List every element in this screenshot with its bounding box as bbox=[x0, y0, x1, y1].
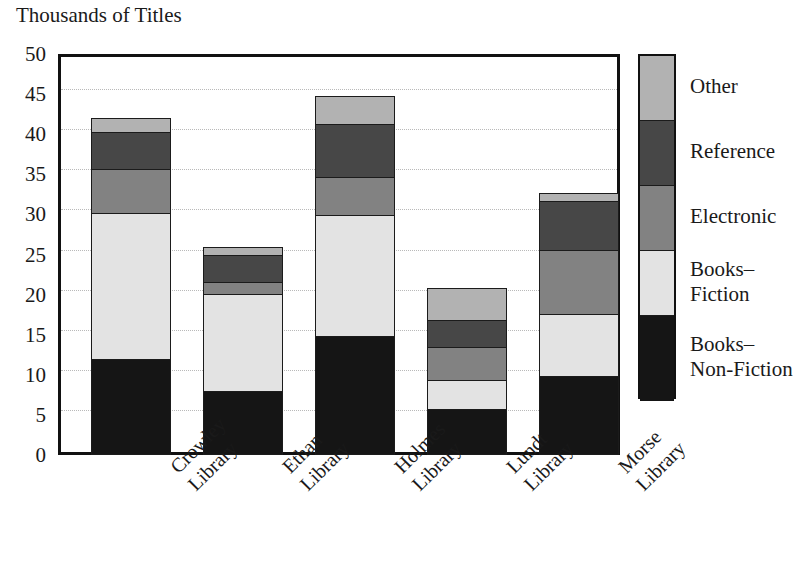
gridline bbox=[61, 209, 617, 211]
x-axis-tick-label-line: Holmes bbox=[389, 461, 407, 479]
legend-swatch bbox=[640, 121, 674, 186]
y-axis-tick-label: 10 bbox=[25, 364, 46, 385]
gridline bbox=[61, 89, 617, 91]
y-axis-tick-label: 0 bbox=[36, 445, 47, 466]
y-axis-tick-label: 20 bbox=[25, 284, 46, 305]
x-axis-tick-label-line: Library bbox=[407, 479, 425, 497]
legend-swatch bbox=[640, 316, 674, 401]
y-axis-tick-label: 25 bbox=[25, 244, 46, 265]
x-axis-tick-label-line: Library bbox=[631, 479, 649, 497]
x-axis-tick-label-line: Ethan bbox=[277, 461, 295, 479]
plot-area bbox=[58, 54, 620, 455]
legend-swatch-bar bbox=[638, 54, 676, 399]
legend-label: Books–Fiction bbox=[690, 257, 754, 307]
gridline bbox=[61, 410, 617, 412]
y-axis-tick-label: 5 bbox=[36, 404, 47, 425]
y-axis-tick-label: 30 bbox=[25, 204, 46, 225]
legend-swatch bbox=[640, 56, 674, 121]
legend-label-line: Other bbox=[690, 74, 738, 99]
legend-label-line: Fiction bbox=[690, 282, 754, 307]
y-axis-tick-label: 50 bbox=[25, 44, 46, 65]
x-axis-tick-label: MorseLibrary bbox=[613, 461, 648, 496]
legend-label: Reference bbox=[690, 139, 775, 164]
stacked-bar-chart: Thousands of Titles 50454035302520151050… bbox=[0, 0, 806, 563]
x-axis-tick-label: EthanLibrary bbox=[277, 461, 312, 496]
x-axis-tick-label-line: Morse bbox=[613, 461, 631, 479]
x-axis-tick-label-line: Library bbox=[183, 479, 201, 497]
y-axis-tick-label: 45 bbox=[25, 84, 46, 105]
x-axis-tick-label-line: Lundt bbox=[501, 461, 519, 479]
legend-label: Books–Non-Fiction bbox=[690, 332, 793, 382]
legend-label-line: Electronic bbox=[690, 204, 776, 229]
legend-label-line: Books– bbox=[690, 257, 754, 282]
legend-label-line: Non-Fiction bbox=[690, 357, 793, 382]
gridline bbox=[61, 370, 617, 372]
legend-label: Electronic bbox=[690, 204, 776, 229]
gridline bbox=[61, 169, 617, 171]
legend: OtherReferenceElectronicBooks–FictionBoo… bbox=[638, 54, 806, 399]
y-axis-tick-label: 40 bbox=[25, 124, 46, 145]
legend-swatch bbox=[640, 186, 674, 251]
y-axis-title: Thousands of Titles bbox=[16, 2, 182, 28]
gridline bbox=[61, 330, 617, 332]
y-axis-tick-labels: 50454035302520151050 bbox=[0, 54, 52, 455]
x-axis-tick-labels: CrowleyLibraryEthanLibraryHolmesLibraryL… bbox=[58, 455, 620, 563]
gridlines bbox=[61, 57, 617, 452]
legend-label-line: Reference bbox=[690, 139, 775, 164]
y-axis-tick-label: 35 bbox=[25, 164, 46, 185]
x-axis-tick-label: HolmesLibrary bbox=[389, 461, 424, 496]
gridline bbox=[61, 129, 617, 131]
gridline bbox=[61, 250, 617, 252]
x-axis-tick-label: CrowleyLibrary bbox=[165, 461, 200, 496]
gridline bbox=[61, 290, 617, 292]
legend-label-line: Books– bbox=[690, 332, 793, 357]
x-axis-tick-label-line: Library bbox=[295, 479, 313, 497]
x-axis-tick-label-line: Crowley bbox=[165, 461, 183, 479]
x-axis-tick-label-line: Library bbox=[519, 479, 537, 497]
legend-swatch bbox=[640, 251, 674, 316]
y-axis-tick-label: 15 bbox=[25, 324, 46, 345]
legend-label: Other bbox=[690, 74, 738, 99]
x-axis-tick-label: LundtLibrary bbox=[501, 461, 536, 496]
